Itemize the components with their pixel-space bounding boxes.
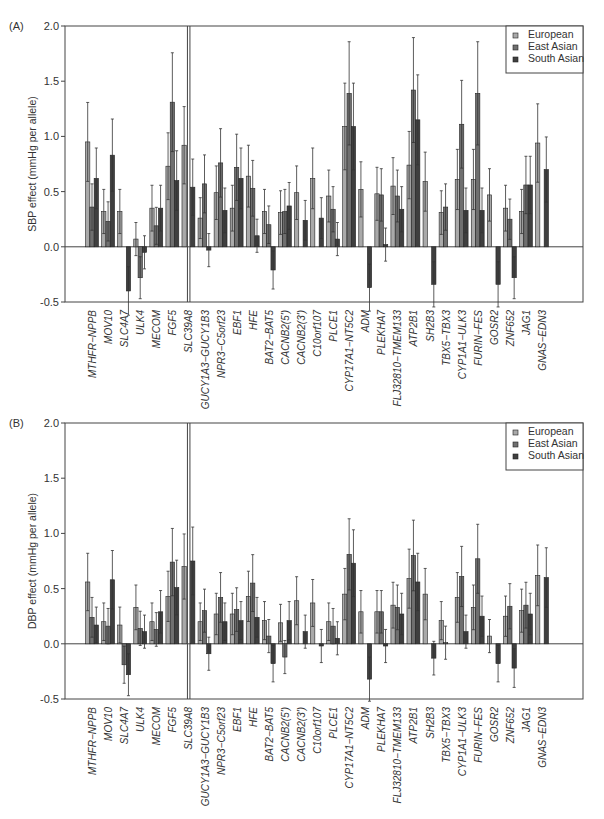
y-axis-label: DBP effect (mmHg per allele): [26, 493, 38, 629]
y-tick-label: 1.5: [44, 472, 59, 484]
category-group: [311, 579, 324, 662]
x-tick-label: PLEKHA7: [376, 707, 387, 752]
category-group: [503, 584, 516, 688]
y-tick-label: 2.0: [44, 20, 59, 32]
x-tick-label: SLC39A8: [183, 707, 194, 750]
category-group: [134, 585, 147, 648]
category-group: [294, 577, 307, 648]
legend-label: European: [528, 28, 574, 40]
legend: EuropeanEast AsianSouth Asian: [506, 26, 584, 73]
x-tick-label: PLEKHA7: [376, 310, 387, 355]
category-group: [471, 42, 484, 247]
x-tick-label: CYP17A1−NT5C2: [344, 707, 355, 789]
category-group: [230, 134, 243, 247]
x-tick-label: JAG1: [521, 707, 532, 733]
x-tick-label: GUCY1A3−GUCY1B3: [200, 310, 211, 410]
category-group: [246, 555, 259, 644]
category-group: [198, 589, 211, 670]
category-group: [487, 620, 500, 682]
category-group: [182, 26, 195, 302]
x-tick-label: MOV10: [103, 310, 114, 344]
x-tick-label: NPR3−C5orf23: [216, 310, 227, 379]
x-tick-label: EBF1: [232, 310, 243, 335]
x-tick-label: NPR3−C5orf23: [216, 707, 227, 776]
x-tick-label: HFE: [248, 707, 259, 727]
category-group: [407, 38, 420, 247]
x-tick-label: GOSR2: [489, 310, 500, 345]
x-tick-label: ATP2B1: [408, 707, 419, 745]
category-group: [487, 169, 500, 307]
x-tick-label: GNAS−EDN3: [537, 310, 548, 371]
panel-label: (B): [9, 417, 24, 429]
x-tick-label: HFE: [248, 310, 259, 330]
x-tick-label: ULK4: [135, 707, 146, 732]
legend-swatch: [513, 454, 518, 459]
y-tick-label: 1.0: [44, 527, 59, 539]
legend-label: South Asian: [528, 449, 584, 461]
x-tick-label: CYP1A1−ULK3: [457, 310, 468, 380]
category-group: [182, 423, 195, 699]
x-tick-label: FGF5: [167, 310, 178, 336]
category-group: [118, 189, 131, 315]
category-group: [166, 53, 179, 247]
x-tick-label: ZNF652: [505, 310, 516, 348]
legend: EuropeanEast AsianSouth Asian: [506, 423, 584, 470]
y-axis-label: SBP effect (mmHg per allele): [26, 96, 38, 232]
category-group: [423, 568, 436, 675]
category-group: [311, 148, 324, 247]
category-group: [327, 603, 340, 655]
legend-label: East Asian: [528, 437, 578, 449]
y-tick-label: 0.0: [44, 638, 59, 650]
x-tick-label: PLCE1: [328, 707, 339, 739]
category-group: [375, 591, 388, 663]
chart-panel-b: -0.50.00.51.01.52.0(B)DBP effect (mmHg p…: [9, 417, 584, 806]
category-group: [343, 42, 356, 247]
x-tick-label: C10orf107: [312, 310, 323, 357]
category-group: [407, 520, 420, 644]
y-tick-label: -0.5: [40, 296, 59, 308]
y-tick-label: 0.5: [44, 186, 59, 198]
x-tick-label: MTHFR−NPPB: [87, 310, 98, 378]
legend-label: European: [528, 425, 574, 437]
legend-swatch: [513, 33, 518, 38]
y-tick-label: 1.5: [44, 75, 59, 87]
x-tick-label: SH2B3: [425, 310, 436, 342]
category-group: [519, 582, 532, 644]
x-tick-label: CACNB2(3'): [296, 707, 307, 762]
x-tick-label: FURIN−FES: [473, 310, 484, 366]
legend-label: East Asian: [528, 40, 578, 52]
category-group: [536, 545, 549, 644]
legend-swatch: [513, 45, 518, 50]
x-tick-label: C10orf107: [312, 707, 323, 754]
category-group: [102, 119, 115, 247]
category-group: [150, 591, 163, 647]
x-tick-label: PLCE1: [328, 310, 339, 342]
category-group: [246, 145, 259, 252]
category-group: [471, 524, 484, 644]
category-group: [359, 162, 372, 311]
x-tick-label: SLC4A7: [119, 310, 130, 348]
y-tick-label: 2.0: [44, 417, 59, 429]
x-tick-label: EBF1: [232, 707, 243, 732]
category-group: [359, 591, 372, 702]
x-tick-label: GUCY1A3−GUCY1B3: [200, 707, 211, 807]
x-tick-label: ZNF652: [505, 707, 516, 745]
category-group: [262, 189, 275, 289]
x-tick-label: SLC4A7: [119, 707, 130, 745]
category-group: [86, 553, 99, 644]
category-group: [391, 582, 404, 644]
x-tick-label: SLC39A8: [183, 310, 194, 353]
plot-frame: [65, 423, 583, 699]
legend-swatch: [513, 57, 518, 62]
x-tick-label: CYP1A1−ULK3: [457, 707, 468, 777]
x-tick-label: TBX5−TBX3: [441, 707, 452, 763]
plot-frame: [65, 26, 583, 302]
y-tick-label: 0.5: [44, 583, 59, 595]
x-tick-label: CACNB2(3'): [296, 310, 307, 365]
x-tick-label: FURIN−FES: [473, 707, 484, 763]
x-tick-label: CYP17A1−NT5C2: [344, 310, 355, 392]
category-group: [519, 156, 532, 247]
category-group: [118, 607, 131, 696]
category-group: [230, 588, 243, 644]
category-group: [214, 573, 227, 644]
